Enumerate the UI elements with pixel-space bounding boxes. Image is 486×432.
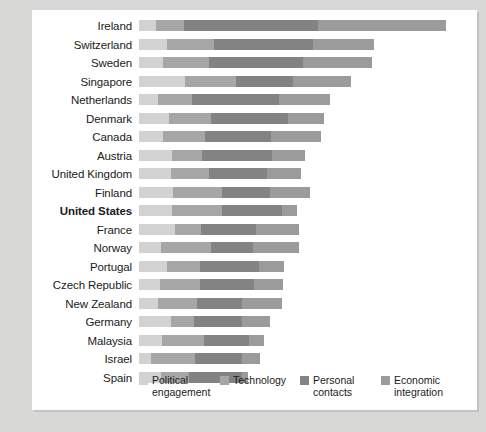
stacked-bar [139, 187, 310, 198]
legend-item: Technology [220, 374, 286, 386]
bar-segment [242, 298, 282, 309]
bar-segment [271, 131, 320, 142]
legend-label: Political engagement [152, 374, 210, 398]
bar-segment [202, 150, 272, 161]
bar-segment [194, 316, 242, 327]
chart-row: France [32, 222, 477, 241]
bar-segment [318, 20, 446, 31]
category-label: Finland [32, 186, 132, 200]
chart-row: Czech Republic [32, 277, 477, 296]
category-label: New Zealand [32, 297, 132, 311]
bar-segment [272, 150, 305, 161]
bar-segment [162, 335, 204, 346]
bar-segment [139, 76, 185, 87]
bar-segment [163, 57, 209, 68]
bar-segment [279, 94, 330, 105]
bar-segment [167, 39, 214, 50]
category-label: France [32, 223, 132, 237]
category-label: Czech Republic [32, 278, 132, 292]
chart-row: Singapore [32, 74, 477, 93]
chart-row: Sweden [32, 55, 477, 74]
bar-segment [205, 131, 271, 142]
bar-segment [139, 242, 161, 253]
bar-segment [139, 279, 160, 290]
stacked-bar [139, 205, 297, 216]
category-label: Sweden [32, 56, 132, 70]
bar-segment [270, 187, 309, 198]
stacked-bar [139, 335, 264, 346]
chart-row: Denmark [32, 111, 477, 130]
bar-segment [242, 353, 261, 364]
chart-row: Israel [32, 351, 477, 370]
chart-row: Netherlands [32, 92, 477, 111]
legend-item: Personal contacts [300, 374, 354, 398]
bar-segment [200, 279, 254, 290]
bar-segment [222, 205, 281, 216]
stacked-bar [139, 57, 372, 68]
chart-row: United States [32, 203, 477, 222]
bar-segment [222, 187, 271, 198]
bar-segment [139, 353, 151, 364]
legend-label: Technology [233, 374, 286, 386]
category-label: Switzerland [32, 38, 132, 52]
bar-segment [242, 316, 270, 327]
stacked-bar [139, 94, 330, 105]
bar-segment [253, 242, 300, 253]
bar-segment [288, 113, 323, 124]
bar-segment [169, 113, 211, 124]
bar-segment [171, 168, 209, 179]
bar-segment [139, 131, 163, 142]
bar-segment [139, 205, 172, 216]
bar-segment [211, 242, 253, 253]
bar-segment [172, 150, 202, 161]
bar-segment [185, 76, 236, 87]
stacked-bar [139, 224, 299, 235]
chart-row: United Kingdom [32, 166, 477, 185]
stacked-bar [139, 150, 305, 161]
bar-segment [313, 39, 373, 50]
bar-segment [195, 353, 241, 364]
bar-segment [184, 20, 318, 31]
chart-row: Germany [32, 314, 477, 333]
category-label: United States [32, 204, 132, 218]
bar-segment [204, 335, 249, 346]
bar-segment [139, 316, 171, 327]
bar-segment [139, 335, 162, 346]
stacked-bar [139, 261, 284, 272]
bar-segment [209, 168, 267, 179]
stacked-bar [139, 279, 283, 290]
bar-segment [139, 168, 171, 179]
bar-segment [267, 168, 301, 179]
stacked-bar [139, 113, 324, 124]
category-label: Germany [32, 315, 132, 329]
bar-segment [173, 187, 221, 198]
category-label: Netherlands [32, 93, 132, 107]
bar-segment [139, 150, 172, 161]
bar-segment [163, 131, 205, 142]
category-label: Austria [32, 149, 132, 163]
category-label: Israel [32, 352, 132, 366]
stacked-bar [139, 168, 301, 179]
bar-segment [160, 279, 200, 290]
bar-segment [209, 57, 303, 68]
chart-row: Finland [32, 185, 477, 204]
bar-segment [139, 187, 173, 198]
bar-segment [172, 205, 222, 216]
bar-segment [139, 261, 167, 272]
chart-row: New Zealand [32, 296, 477, 315]
category-label: Portugal [32, 260, 132, 274]
bar-segment [161, 242, 210, 253]
chart-row: Canada [32, 129, 477, 148]
bar-segment [256, 224, 298, 235]
bar-segment [139, 20, 156, 31]
bar-segment [139, 39, 167, 50]
bar-segment [192, 94, 278, 105]
category-label: United Kingdom [32, 167, 132, 181]
stacked-bar [139, 39, 374, 50]
bar-segment [151, 353, 196, 364]
chart-row: Norway [32, 240, 477, 259]
bar-segment [201, 224, 256, 235]
legend-item: Political engagement [139, 374, 210, 398]
bar-segment [254, 279, 282, 290]
chart-plot-area: IrelandSwitzerlandSwedenSingaporeNetherl… [32, 18, 477, 370]
